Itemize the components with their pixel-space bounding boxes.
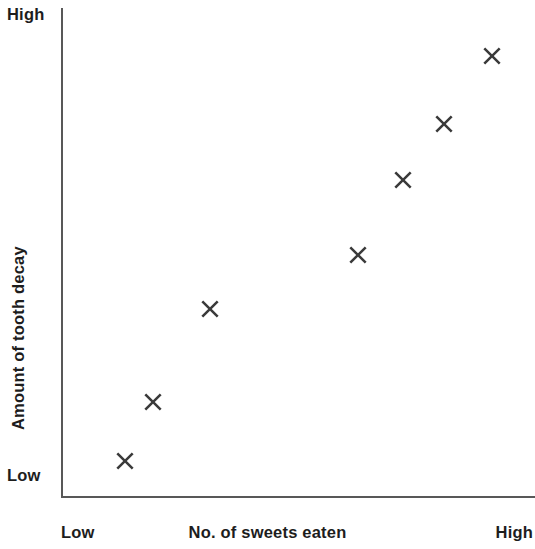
data-point-marker (197, 296, 223, 322)
data-point-marker (390, 167, 416, 193)
plot-area (0, 0, 535, 549)
data-point-marker (345, 242, 371, 268)
scatter-chart: High Low Amount of tooth decay Low No. o… (0, 0, 535, 549)
data-point-marker (140, 389, 166, 415)
data-point-marker (479, 43, 505, 69)
data-point-marker (431, 111, 457, 137)
data-point-marker (112, 448, 138, 474)
